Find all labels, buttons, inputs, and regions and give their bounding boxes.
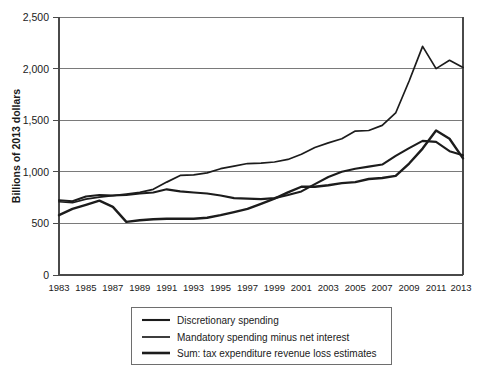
xtick-label-1997: 1997 (237, 282, 258, 293)
series-lines-group (59, 46, 463, 221)
xtick-label-1991: 1991 (156, 282, 177, 293)
xtick-label-2003: 2003 (318, 282, 339, 293)
ytick-label-2000: 2,000 (23, 63, 49, 75)
legend-label-mandatory-spending: Mandatory spending minus net interest (177, 332, 350, 343)
ytick-label-1500: 1,500 (23, 114, 49, 126)
xtick-label-2007: 2007 (372, 282, 393, 293)
xtick-label-2001: 2001 (291, 282, 312, 293)
x-tick-labels-group: 1983 1985 1987 1989 1991 1993 1995 1997 … (48, 282, 471, 293)
legend: Discretionary spending Mandatory spendin… (131, 307, 391, 364)
y-axis-title-group: Billions of 2013 dollars (10, 89, 22, 204)
y-tick-labels-group: 2,500 2,000 1,500 1,000 500 0 (23, 11, 49, 281)
y-axis-title: Billions of 2013 dollars (10, 89, 22, 204)
xtick-label-1989: 1989 (129, 282, 150, 293)
ytick-label-1000: 1,000 (23, 166, 49, 178)
series-line-mandatory-spending-minus-net-interest (59, 46, 463, 202)
xtick-label-2011: 2011 (426, 282, 446, 293)
legend-label-discretionary-spending: Discretionary spending (177, 315, 279, 326)
xtick-label-1995: 1995 (210, 282, 231, 293)
xtick-label-1985: 1985 (75, 282, 96, 293)
xtick-label-2005: 2005 (345, 282, 366, 293)
y-tick-marks-group (53, 17, 59, 275)
axis-frame-group (59, 17, 463, 275)
ytick-label-2500: 2,500 (23, 11, 49, 23)
legend-label-tax-expenditure: Sum: tax expenditure revenue loss estima… (177, 348, 377, 359)
xtick-label-2013: 2013 (450, 282, 471, 293)
xtick-label-1999: 1999 (264, 282, 285, 293)
series-line-tax-expenditure-revenue-loss (59, 131, 463, 222)
ytick-label-0: 0 (43, 269, 49, 281)
line-chart-svg: Billions of 2013 dollars 2,500 2,000 1,5 (0, 0, 477, 369)
gridlines-group (59, 17, 463, 223)
ytick-label-500: 500 (31, 217, 49, 229)
xtick-label-1983: 1983 (48, 282, 69, 293)
chart-figure: Billions of 2013 dollars 2,500 2,000 1,5 (0, 0, 477, 369)
xtick-label-1987: 1987 (102, 282, 123, 293)
xtick-label-2009: 2009 (399, 282, 420, 293)
xtick-label-1993: 1993 (183, 282, 204, 293)
